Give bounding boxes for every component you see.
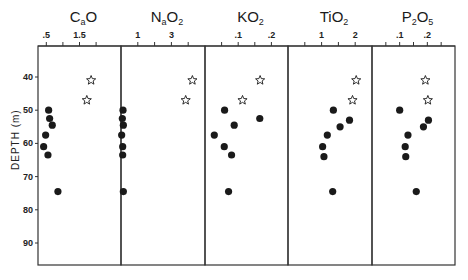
sample-circle-marker [119,107,126,114]
y-tick-label: 90 [23,238,33,248]
sample-circle-marker [119,115,126,122]
x-tick-label: .5 [43,30,51,40]
y-axis: 405060708090 [23,46,455,248]
x-tick-label: .2 [424,30,432,40]
sample-circle-marker [120,122,127,129]
sample-circle-marker [45,107,52,114]
sample-circle-marker [211,132,218,139]
panel-tio2: TiO212 [288,8,372,265]
sample-circle-marker [120,188,127,195]
x-tick-label: .1 [396,30,404,40]
sample-star-marker [423,95,432,104]
sample-circle-marker [228,151,235,158]
panel-frame [205,46,288,265]
panel-title: CaO [70,8,98,27]
depth-profile-chart: 405060708090 DEPTH (m) CaO.51.5NaO213KO2… [0,0,468,280]
sample-circle-marker [402,143,409,150]
sample-circle-marker [119,151,126,158]
x-tick-label: 2 [353,30,358,40]
x-tick-label: 1.5 [73,30,86,40]
y-tick-label: 70 [23,172,33,182]
sample-circle-marker [396,107,403,114]
x-tick-label: 1 [319,30,324,40]
x-tick-label: 1 [135,30,140,40]
y-tick-label: 40 [23,72,33,82]
sample-circle-marker [256,115,263,122]
panel-title: P2O5 [402,8,434,27]
y-tick-label: 50 [23,105,33,115]
sample-circle-marker [413,188,420,195]
panels: CaO.51.5NaO213KO2.1.2TiO212P2O5.1.2 [38,8,455,265]
sample-circle-marker [336,123,343,130]
y-tick-label: 80 [23,205,33,215]
sample-circle-marker [329,188,336,195]
sample-circle-marker [118,132,125,139]
sample-star-marker [421,76,430,85]
sample-circle-marker [46,115,53,122]
y-tick-label: 60 [23,138,33,148]
sample-circle-marker [319,143,326,150]
sample-circle-marker [49,122,56,129]
sample-circle-marker [119,143,126,150]
sample-circle-marker [225,188,232,195]
sample-circle-marker [42,132,49,139]
sample-star-marker [181,95,190,104]
panel-k2o: KO2.1.2 [205,8,288,265]
sample-circle-marker [221,107,228,114]
sample-star-marker [87,76,96,85]
panel-title: KO2 [237,8,264,27]
sample-star-marker [256,76,265,85]
x-tick-label: .2 [268,30,276,40]
sample-star-marker [238,95,247,104]
sample-circle-marker [40,143,47,150]
sample-circle-marker [324,132,331,139]
sample-circle-marker [404,132,411,139]
sample-circle-marker [231,122,238,129]
panel-na2o: NaO213 [118,8,205,265]
sample-circle-marker [44,151,51,158]
x-tick-label: .1 [234,30,242,40]
panel-title: TiO2 [320,8,349,27]
sample-circle-marker [221,143,228,150]
sample-star-marker [348,95,357,104]
sample-circle-marker [54,188,61,195]
sample-circle-marker [420,123,427,130]
panel-title: NaO2 [151,8,184,27]
sample-star-marker [82,95,91,104]
y-axis-title: DEPTH (m) [10,109,21,170]
panel-p2o5: P2O5.1.2 [372,8,455,265]
x-tick-label: 3 [169,30,174,40]
sample-star-marker [188,76,197,85]
panel-frame [372,46,455,265]
sample-circle-marker [346,117,353,124]
panel-cao: CaO.51.5 [38,8,121,265]
sample-circle-marker [425,117,432,124]
sample-star-marker [352,76,361,85]
sample-circle-marker [402,153,409,160]
sample-circle-marker [330,107,337,114]
sample-circle-marker [320,153,327,160]
